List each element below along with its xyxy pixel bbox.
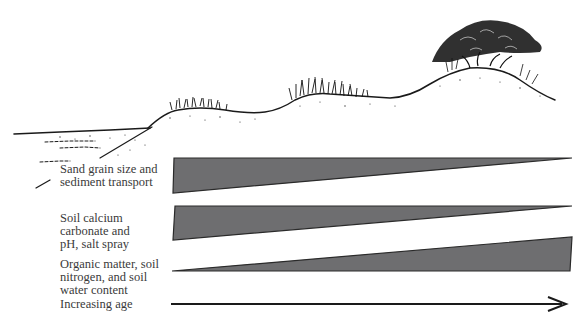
label-increasing-age: Increasing age	[60, 298, 133, 311]
dune-surface	[148, 68, 555, 128]
label-organic-matter: Organic matter, soil nitrogen, and soil …	[60, 258, 159, 297]
gradient-wedge-calcium-ph	[173, 206, 572, 240]
increasing-age-arrow	[171, 297, 566, 311]
sand-stipple	[59, 77, 540, 155]
gradient-wedge-sand-grain	[173, 158, 572, 193]
label-calcium-ph: Soil calcium carbonate and pH, salt spra…	[60, 212, 130, 251]
gradient-wedge-organic-matter	[172, 237, 572, 271]
label-sand-grain: Sand grain size and sediment transport	[60, 163, 158, 189]
dune-base-line	[100, 127, 152, 158]
shoreline-line	[14, 128, 150, 134]
middle-dune-grass-icon	[289, 77, 368, 100]
